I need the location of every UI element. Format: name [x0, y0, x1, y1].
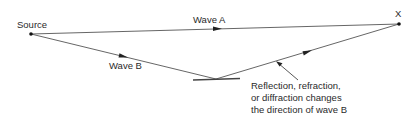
wave-a-arrow-icon — [213, 27, 222, 31]
annotation-pointer — [278, 63, 298, 80]
wave-b-label: Wave B — [109, 61, 142, 71]
wave-b-reflected-arrow-icon — [303, 50, 313, 55]
source-dot — [29, 32, 33, 36]
annotation-line-1: Reflection, refraction, — [251, 80, 347, 92]
reflecting-surface — [193, 79, 240, 81]
source-label: Source — [17, 20, 47, 30]
receiver-dot — [397, 22, 401, 26]
annotation-text: Reflection, refraction, or diffraction c… — [251, 80, 347, 116]
wave-a-label: Wave A — [193, 15, 225, 25]
wave-b-incident-arrow-icon — [119, 53, 129, 57]
annotation-line-2: or diffraction changes — [251, 92, 347, 104]
annotation-line-3: the direction of wave B — [251, 104, 347, 116]
receiver-label: X — [395, 9, 401, 19]
